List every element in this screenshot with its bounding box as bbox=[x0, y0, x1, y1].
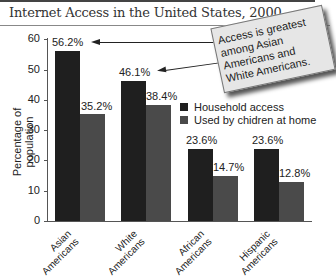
category-label: AfricanAmericans bbox=[165, 228, 214, 277]
y-axis bbox=[47, 38, 48, 221]
arrow-asian bbox=[99, 42, 224, 43]
category-label: WhiteAmericans bbox=[98, 228, 147, 277]
legend-item-children: Used by chidren at home bbox=[180, 113, 316, 126]
legend-item-household: Household access bbox=[180, 100, 316, 113]
bar-children-hispanic bbox=[279, 182, 304, 221]
bar-children-asian bbox=[80, 114, 105, 221]
arrowhead-icon bbox=[91, 39, 100, 45]
y-tick: 20 bbox=[20, 153, 40, 165]
bar-children-african bbox=[213, 176, 238, 221]
legend-swatch bbox=[180, 103, 188, 111]
y-tick: 10 bbox=[20, 184, 40, 196]
bar-household-hispanic bbox=[254, 149, 279, 221]
legend: Household access Used by chidren at home bbox=[180, 100, 316, 126]
y-tick: 60 bbox=[20, 32, 40, 44]
value-label: 35.2% bbox=[81, 100, 112, 112]
value-label: 56.2% bbox=[52, 36, 83, 48]
callout-note: Access is greatest among Asian Americans… bbox=[210, 5, 335, 93]
bar-household-asian bbox=[55, 51, 80, 221]
bar-household-african bbox=[188, 149, 213, 221]
value-label: 23.6% bbox=[252, 134, 283, 146]
y-tick: 0 bbox=[20, 214, 40, 226]
value-label: 38.4% bbox=[146, 90, 177, 102]
value-label: 14.7% bbox=[213, 161, 244, 173]
category-label: HispanicAmericans bbox=[231, 228, 280, 277]
bar-children-white bbox=[146, 105, 171, 221]
y-tick: 30 bbox=[20, 123, 40, 135]
y-tick: 40 bbox=[20, 93, 40, 105]
bar-household-white bbox=[121, 81, 146, 221]
legend-swatch bbox=[180, 116, 188, 124]
arrowhead-icon bbox=[157, 66, 167, 73]
x-axis bbox=[47, 221, 312, 222]
category-label: AsianAmericans bbox=[32, 228, 81, 277]
value-label: 23.6% bbox=[186, 134, 217, 146]
y-tick: 50 bbox=[20, 63, 40, 75]
value-label: 46.1% bbox=[119, 66, 150, 78]
value-label: 12.8% bbox=[279, 167, 310, 179]
